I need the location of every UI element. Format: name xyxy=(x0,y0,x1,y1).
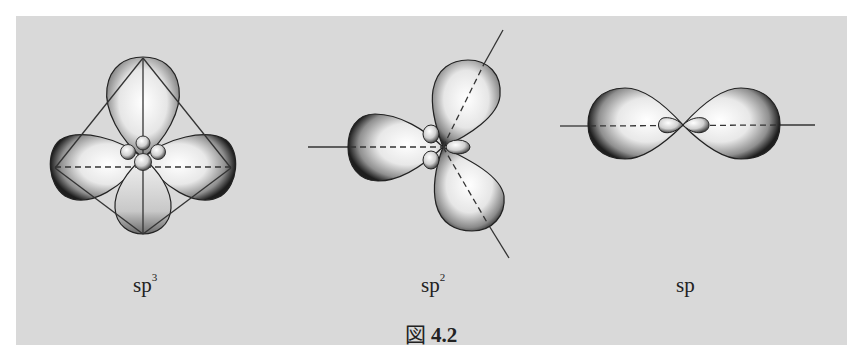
sp-label: sp xyxy=(676,273,695,298)
sp3-orbital xyxy=(50,57,235,234)
sp3-label-superscript: 3 xyxy=(152,271,158,283)
sp-label-base: sp xyxy=(676,273,695,297)
caption-number: 4.2 xyxy=(431,323,457,347)
figure-caption: 図 4.2 xyxy=(0,318,862,348)
sp2-label-base: sp xyxy=(421,273,440,297)
sp3-label: sp3 xyxy=(133,273,157,298)
sp3-label-base: sp xyxy=(133,273,152,297)
sp2-label: sp2 xyxy=(421,273,445,298)
sp2-orbital xyxy=(308,30,509,258)
sp2-label-superscript: 2 xyxy=(440,271,446,283)
hybrid-orbitals-diagram xyxy=(0,0,862,363)
sp-orbital xyxy=(560,88,815,159)
caption-prefix: 図 xyxy=(405,323,426,347)
